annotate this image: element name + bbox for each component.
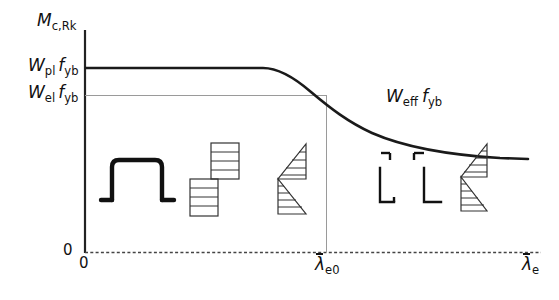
- elastic-stress-block: [278, 144, 306, 214]
- resistance-curve: [86, 68, 528, 159]
- effective-section-part-right: [414, 153, 441, 202]
- y-tick-label-wpl: Wplfyb: [28, 57, 79, 78]
- x-tick-label-lambda-e0: λe0: [315, 256, 340, 277]
- x-origin-label: 0: [79, 256, 89, 271]
- y-axis-title: Mc,Rk: [37, 12, 76, 33]
- plastic-stress-block: [190, 143, 239, 216]
- y-tick-label-wel: Welfyb: [28, 84, 78, 105]
- y-origin-label: 0: [63, 243, 73, 258]
- moment-resistance-diagram: Mc,Rk Wplfyb Welfyb Wefffyb 0 0 λe0 λe: [0, 0, 559, 300]
- hat-section-profile: [101, 160, 174, 200]
- x-end-label-lambda-e: λe: [522, 256, 539, 277]
- curve-label-weff: Wefffyb: [386, 88, 442, 109]
- effective-section-part-left: [380, 153, 394, 202]
